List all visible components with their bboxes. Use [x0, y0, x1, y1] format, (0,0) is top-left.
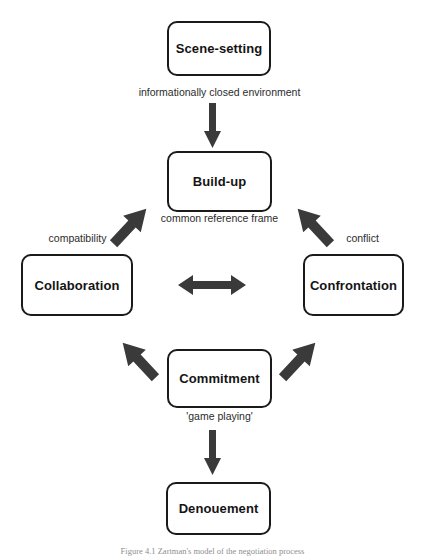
- node-collaboration: Collaboration: [21, 254, 133, 316]
- node-label: Collaboration: [34, 278, 119, 293]
- figure-caption: Figure 4.1 Zartman's model of the negoti…: [0, 546, 425, 556]
- arrow-bidirectional-icon-collaboration-confrontation: [178, 272, 246, 298]
- edge-label-conflict: conflict: [310, 232, 415, 244]
- arrow-down-icon-commitment-to-denouement: [204, 430, 221, 475]
- node-build-up: Build-up: [167, 151, 272, 212]
- negotiation-stages-diagram: Scene-setting Build-up Collaboration Con…: [0, 0, 425, 559]
- node-commitment: Commitment: [167, 349, 272, 408]
- edge-label-compatibility: compatibility: [20, 232, 135, 244]
- node-scene-setting: Scene-setting: [167, 21, 271, 76]
- edge-label-common-reference-frame: common reference frame: [142, 212, 297, 224]
- node-denouement: Denouement: [166, 482, 271, 535]
- edge-label-informationally-closed-environment: informationally closed environment: [117, 86, 322, 98]
- node-label: Confrontation: [310, 278, 397, 293]
- arrow-down-icon-scene-to-build: [204, 103, 221, 148]
- node-label: Scene-setting: [176, 41, 263, 56]
- node-label: Build-up: [193, 174, 247, 189]
- node-label: Denouement: [179, 501, 259, 516]
- node-confrontation: Confrontation: [303, 254, 404, 316]
- node-label: Commitment: [179, 371, 259, 386]
- edge-label-game-playing: 'game playing': [167, 410, 272, 422]
- arrow-down-right-icon-collaboration-to-commitment: [108, 332, 166, 384]
- arrow-down-left-icon-confrontation-to-commitment: [272, 332, 330, 384]
